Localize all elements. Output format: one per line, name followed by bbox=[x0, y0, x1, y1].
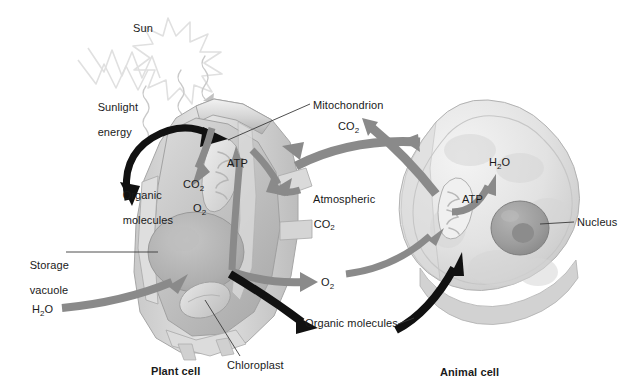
animal-cell-illustration bbox=[399, 100, 579, 325]
animal-cell-caption: Animal cell bbox=[440, 366, 499, 379]
atmospheric-co2-label: Atmospheric CO2 bbox=[301, 180, 375, 245]
h2o-plant-label: H2O bbox=[32, 303, 53, 318]
nucleus-organelle bbox=[491, 201, 549, 255]
co2-plant-label: CO2 bbox=[183, 178, 204, 193]
sun-label: Sun bbox=[133, 22, 153, 35]
h2o-animal-label: H2O bbox=[489, 156, 510, 171]
co2-mitochondrion-label: CO2 bbox=[338, 120, 359, 135]
atp-plant-label: ATP bbox=[227, 157, 248, 170]
storage-vacuole-label: Storage vacuole bbox=[17, 246, 69, 309]
organic-molecules-plant-label: Organic molecules bbox=[110, 176, 173, 239]
nucleus-label: Nucleus bbox=[577, 216, 617, 229]
atp-animal-label: ATP bbox=[462, 193, 483, 206]
organic-molecules-animal-label: Organic molecules bbox=[305, 317, 398, 330]
plant-cell-caption: Plant cell bbox=[151, 365, 200, 378]
chloroplast-label: Chloroplast bbox=[227, 359, 284, 372]
mitochondrion-label: Mitochondrion bbox=[313, 99, 383, 112]
o2-out-label: O2 bbox=[321, 276, 334, 291]
diagram-canvas: Sun Sunlight energy Organic molecules CO… bbox=[0, 0, 630, 392]
o2-plant-label: O2 bbox=[193, 202, 206, 217]
sunlight-energy-label: Sunlight energy bbox=[85, 88, 138, 151]
